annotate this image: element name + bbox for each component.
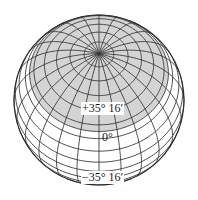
label-lower-latitude: −35° 16′ — [81, 171, 124, 184]
label-equator: 0° — [101, 131, 114, 144]
label-upper-latitude: +35° 16′ — [81, 102, 124, 115]
